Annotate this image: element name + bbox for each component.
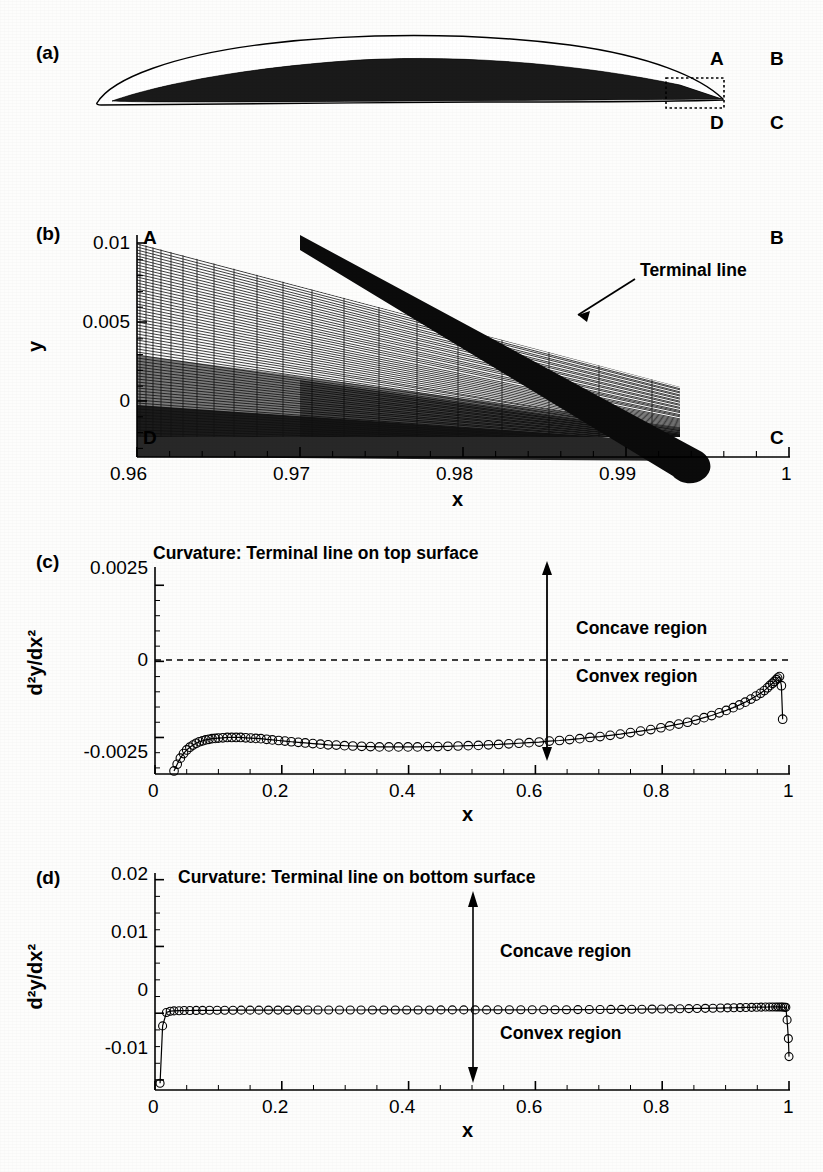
panel-b-xtick-0: 0.96 — [110, 463, 147, 485]
panel-d-xtick-4: 0.8 — [643, 1096, 669, 1118]
panel-b-corner-a: A — [143, 227, 157, 249]
panel-b-corner-c: C — [770, 427, 784, 449]
panel-d-ytick-3: -0.01 — [56, 1037, 148, 1059]
panel-d-ytick-0: 0.02 — [66, 863, 148, 885]
panel-c-x-axis-title: x — [462, 803, 473, 826]
panel-d-concave-label: Concave region — [500, 941, 631, 962]
panel-b-ytick-2: 0 — [78, 390, 130, 412]
panel-c-xtick-3: 0.6 — [516, 780, 542, 802]
panel-c-ytick-0: 0.0025 — [58, 557, 148, 579]
panel-c-xtick-5: 1 — [783, 780, 794, 802]
panel-c-region-arrow — [542, 561, 552, 761]
panel-c-xtick-1: 0.2 — [262, 780, 288, 802]
panel-b-x-axis-title: x — [452, 488, 463, 511]
panel-b: (b) — [0, 205, 823, 515]
panel-c-convex-label: Convex region — [576, 666, 698, 687]
panel-d-y-axis-title-text: d²y/dx² — [24, 944, 46, 1010]
panel-b-ytick-1: 0.005 — [68, 311, 130, 333]
panel-b-ytick-0: 0.01 — [78, 232, 130, 254]
panel-d-ytick-1: 0.01 — [66, 921, 148, 943]
panel-a-airfoil-figure — [0, 0, 823, 175]
panel-d-xtick-5: 1 — [783, 1096, 794, 1118]
panel-b-terminal-line-annotation: Terminal line — [640, 260, 747, 281]
panel-b-xtick-4: 1 — [781, 463, 792, 485]
panel-a: (a) A B D C — [0, 0, 823, 175]
panel-a-corner-a: A — [710, 48, 724, 70]
panel-b-xtick-1: 0.97 — [273, 463, 310, 485]
panel-d-convex-label: Convex region — [500, 1023, 622, 1044]
panel-d-xtick-0: 0 — [148, 1096, 159, 1118]
panel-c-ytick-2: -0.0025 — [48, 741, 148, 763]
panel-c-ytick-1: 0 — [58, 649, 148, 671]
panel-d-xtick-2: 0.4 — [389, 1096, 415, 1118]
panel-d-xtick-1: 0.2 — [262, 1096, 288, 1118]
panel-d-ytick-2: 0 — [66, 979, 148, 1001]
terminal-line-arrowhead — [578, 311, 590, 322]
panel-d-region-arrow — [468, 891, 478, 1083]
panel-b-xtick-3: 0.99 — [599, 463, 636, 485]
panel-b-xtick-2: 0.98 — [436, 463, 473, 485]
panel-a-corner-b: B — [770, 48, 784, 70]
panel-b-y-axis-title: y — [24, 341, 47, 352]
panel-a-corner-c: C — [770, 112, 784, 134]
panel-c-xtick-4: 0.8 — [643, 780, 669, 802]
panel-d-x-axis-title: x — [462, 1119, 473, 1142]
panel-c-concave-label: Concave region — [576, 618, 707, 639]
panel-d-xtick-3: 0.6 — [516, 1096, 542, 1118]
panel-a-corner-d: D — [710, 112, 724, 134]
panel-c-xtick-2: 0.4 — [389, 780, 415, 802]
panel-d-y-axis-title: d²y/dx² — [24, 948, 47, 1010]
panel-c-y-axis-title: d²y/dx² — [24, 634, 47, 696]
panel-c-xtick-0: 0 — [148, 780, 159, 802]
panel-c-data-markers — [170, 672, 787, 775]
terminal-line-leader — [578, 279, 635, 315]
panel-d: (d) Curvature: Terminal line on bottom s… — [0, 845, 823, 1145]
panel-b-corner-d: D — [143, 427, 157, 449]
panel-b-corner-b: B — [770, 227, 784, 249]
panel-c: (c) Curvature: Terminal line on top surf… — [0, 535, 823, 820]
panel-c-y-axis-title-text: d²y/dx² — [24, 630, 46, 696]
